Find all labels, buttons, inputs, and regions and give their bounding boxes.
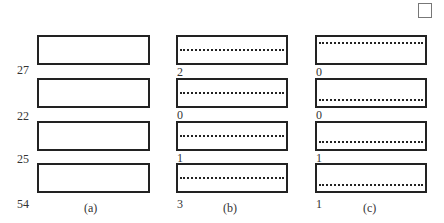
- dashed-line: [319, 42, 423, 44]
- label-b-4: 3: [177, 198, 183, 210]
- label-a-4: 54: [17, 198, 29, 210]
- label-a-1: 27: [17, 64, 29, 76]
- dashed-line: [180, 92, 284, 94]
- bin-a-2: [37, 78, 150, 108]
- label-c-1: 0: [316, 66, 322, 78]
- bin-c-4: [315, 163, 427, 193]
- label-c-4: 1: [316, 198, 322, 210]
- dashed-line: [319, 99, 423, 101]
- label-b-3: 1: [177, 152, 183, 164]
- dashed-line: [180, 135, 284, 137]
- label-c-2: 0: [316, 109, 322, 121]
- bin-b-4: [176, 163, 288, 193]
- caption-a: (a): [84, 202, 97, 214]
- caption-b: (b): [223, 202, 237, 214]
- bin-b-2: [176, 78, 288, 108]
- bin-c-2: [315, 78, 427, 108]
- dashed-line: [319, 184, 423, 186]
- corner-checkbox[interactable]: [418, 3, 432, 18]
- label-c-3: 1: [316, 152, 322, 164]
- bin-c-1: [315, 35, 427, 65]
- dashed-line: [180, 177, 284, 179]
- caption-c: (c): [363, 202, 376, 214]
- bin-a-4: [37, 163, 150, 193]
- bin-c-3: [315, 121, 427, 151]
- label-b-1: 2: [177, 66, 183, 78]
- bin-a-1: [37, 35, 150, 65]
- dashed-line: [319, 141, 423, 143]
- bin-b-3: [176, 121, 288, 151]
- bin-a-3: [37, 121, 150, 151]
- label-a-2: 22: [17, 110, 29, 122]
- dashed-line: [180, 49, 284, 51]
- label-b-2: 0: [177, 109, 183, 121]
- label-a-3: 25: [17, 153, 29, 165]
- bin-b-1: [176, 35, 288, 65]
